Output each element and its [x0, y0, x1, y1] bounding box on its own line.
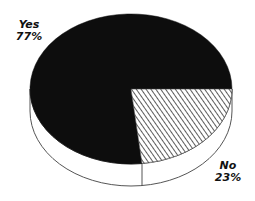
slice-label-no-percent: 23% [213, 172, 243, 184]
pie-slice-no [131, 89, 232, 164]
slice-label-yes-percent: 77% [14, 31, 44, 43]
pie-chart: Yes 77% No 23% [0, 0, 255, 201]
slice-label-yes: Yes 77% [14, 19, 44, 43]
slice-label-no: No 23% [213, 160, 243, 184]
